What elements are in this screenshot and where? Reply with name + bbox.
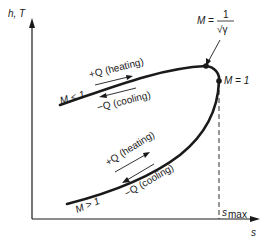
upper-heating-label: +Q (heating) xyxy=(88,56,145,80)
rayleigh-diagram: h, T s s max M = 1 √γ M = 1 M < 1 +Q (he… xyxy=(0,0,265,237)
pointer-line xyxy=(208,40,220,62)
max-enthalpy-label: M = 1 √γ xyxy=(197,9,234,35)
svg-text:M =: M = xyxy=(197,15,214,26)
upper-cooling-label: −Q (cooling) xyxy=(96,89,152,113)
x-axis-arrow-icon xyxy=(250,216,260,222)
lower-region-label: M > 1 xyxy=(74,195,102,215)
smax-label: s max xyxy=(222,207,247,220)
svg-text:1: 1 xyxy=(223,9,229,20)
sonic-label: M = 1 xyxy=(224,75,249,86)
sonic-point xyxy=(216,78,222,84)
y-axis xyxy=(29,18,35,219)
y-axis-label: h, T xyxy=(8,8,26,19)
lower-heating-label: +Q (heating) xyxy=(103,129,156,168)
y-axis-arrow-icon xyxy=(29,18,35,28)
upper-region-label: M < 1 xyxy=(59,88,86,106)
svg-text:s: s xyxy=(222,207,227,218)
svg-text:√γ: √γ xyxy=(217,24,228,35)
svg-text:max: max xyxy=(228,209,247,220)
x-axis-label: s xyxy=(251,227,256,237)
